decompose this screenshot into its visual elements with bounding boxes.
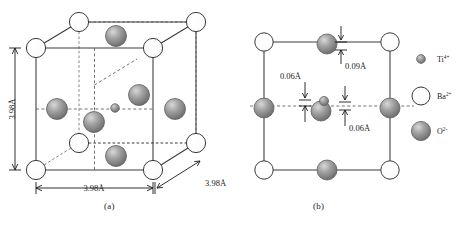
atom-oxygen-bottom-edge-b <box>317 160 337 180</box>
dimension-center-shift-b-label: 0.06Å <box>349 123 371 133</box>
atom-barium-corner-back-bottom-left <box>69 133 88 152</box>
atom-oxygen-right-face <box>165 99 186 120</box>
dimension-height-a-label: 3.98Å <box>7 98 17 120</box>
atom-barium-corner-front-top-right <box>143 38 162 57</box>
dimension-width-a: 3.98Å <box>36 182 153 194</box>
atom-oxygen-front-face <box>84 112 105 133</box>
legend-marker-barium-icon <box>412 87 430 105</box>
atom-barium-corner-top-right-b <box>381 33 399 51</box>
panel-a-caption: (a) <box>104 201 115 211</box>
atom-barium-corner-front-bottom-left <box>26 160 45 179</box>
dimension-center-shift-b: 0.06Å <box>339 86 371 133</box>
dimension-depth-a: 3.98Å <box>155 161 227 194</box>
atom-barium-corner-bottom-left-b <box>255 161 273 179</box>
dimension-height-a: 3.98Å <box>7 48 21 170</box>
panel-b-group: 0.09Å 0.06Å 0.06Å <box>250 26 414 180</box>
dimension-top-shift-b-label: 0.09Å <box>345 61 367 71</box>
figure-batio3-crystal-structure: 3.98Å 3.98Å 3.98Å <box>0 0 469 228</box>
atom-oxygen-left-face <box>47 99 68 120</box>
dimension-depth-a-label: 3.98Å <box>205 178 227 188</box>
atom-barium-corner-back-bottom-right <box>186 133 205 152</box>
dimension-top-shift-b: 0.09Å <box>335 26 367 71</box>
atom-titanium-center-b <box>319 96 328 105</box>
atom-oxygen-top-edge-b <box>317 34 337 54</box>
atom-barium-corner-bottom-right-b <box>381 161 399 179</box>
atom-barium-corner-front-bottom-right <box>143 160 162 179</box>
atom-oxygen-back-face <box>129 85 150 106</box>
atom-oxygen-left-edge-b <box>254 98 274 118</box>
panel-a-group: 3.98Å 3.98Å 3.98Å <box>7 12 227 194</box>
figure-svg: 3.98Å 3.98Å 3.98Å <box>0 0 469 228</box>
atom-oxygen-top-face <box>106 26 127 47</box>
legend-label-titanium: Ti4+ <box>437 54 449 64</box>
legend: Ti4+ Ba2+ O2- <box>411 54 451 141</box>
atom-barium-corner-top-left-b <box>255 33 273 51</box>
dimension-left-shift-b-label: 0.06Å <box>280 71 302 81</box>
legend-label-oxygen: O2- <box>437 126 447 136</box>
dimension-left-shift-b: 0.06Å <box>280 71 311 122</box>
legend-marker-titanium-icon <box>417 55 426 64</box>
legend-marker-oxygen-icon <box>411 121 430 140</box>
panel-b-caption: (b) <box>313 201 324 211</box>
atom-barium-corner-front-top-left <box>26 38 45 57</box>
atom-barium-corner-back-top-left <box>69 12 88 31</box>
atom-oxygen-right-edge-b <box>380 98 400 118</box>
atom-oxygen-bottom-face <box>106 146 127 167</box>
atom-barium-corner-back-top-right <box>186 12 205 31</box>
atom-titanium-body-center <box>111 104 120 113</box>
dimension-width-a-label: 3.98Å <box>83 183 105 193</box>
legend-label-barium: Ba2+ <box>437 91 451 101</box>
